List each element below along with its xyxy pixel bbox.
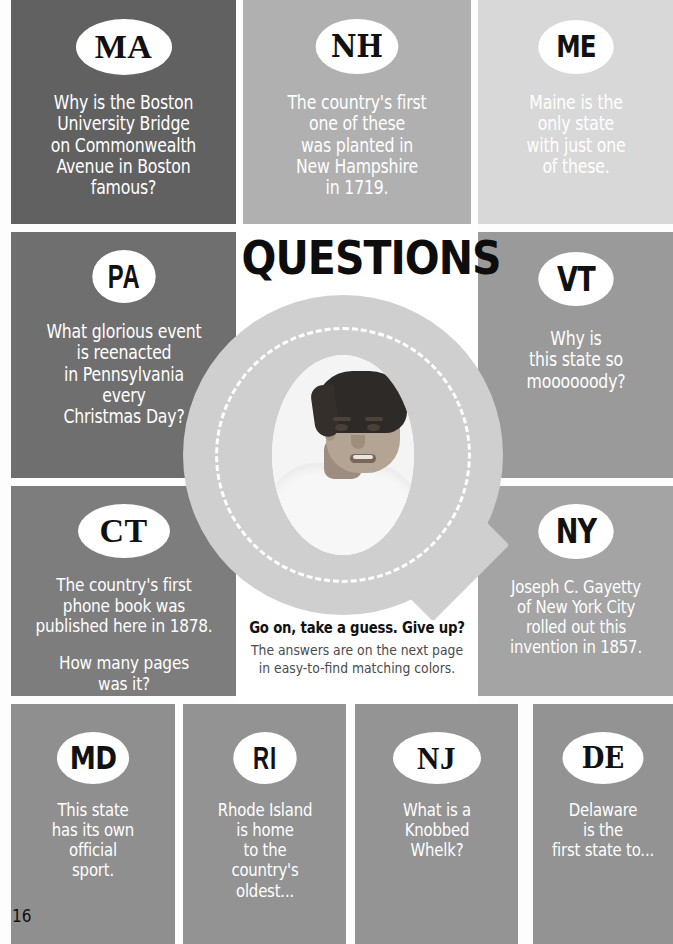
question-card-ri[interactable]: RI Rhode Island is home to the country's… bbox=[183, 704, 346, 944]
portrait-photo bbox=[272, 355, 414, 555]
question-card-md[interactable]: MD This state has its own official sport… bbox=[11, 704, 175, 944]
state-badge-ma: MA bbox=[76, 19, 172, 75]
question-text-md: This state has its own official sport. bbox=[24, 800, 162, 881]
eyebrow-left bbox=[333, 417, 351, 421]
question-text-ma: Why is the Boston University Bridge on C… bbox=[29, 92, 218, 198]
question-card-ny[interactable]: NY Joseph C. Gayetty of New York City ro… bbox=[478, 486, 673, 696]
question-card-ma[interactable]: MA Why is the Boston University Bridge o… bbox=[11, 0, 236, 224]
caption-line-2: in easy-to-find matching colors. bbox=[242, 660, 472, 678]
question-card-nh[interactable]: NH The country's first one of these was … bbox=[243, 0, 471, 224]
text-spacer bbox=[23, 637, 224, 653]
page-title: QUESTIONS bbox=[242, 234, 475, 281]
caption-sub: The answers are on the next page in easy… bbox=[242, 642, 472, 677]
big-q-letter-graphic bbox=[183, 295, 503, 615]
question-text-me: Maine is the only state with just one of… bbox=[493, 92, 659, 177]
state-badge-ny: NY bbox=[538, 504, 613, 559]
boy-portrait-illustration bbox=[272, 355, 414, 555]
state-badge-ct: CT bbox=[78, 504, 170, 558]
question-card-de[interactable]: DE Delaware is the first state to... bbox=[533, 704, 673, 944]
eye-left bbox=[335, 424, 348, 431]
question-card-me[interactable]: ME Maine is the only state with just one… bbox=[478, 0, 673, 224]
question-text-de: Delaware is the first state to... bbox=[540, 800, 665, 860]
state-badge-vt: VT bbox=[538, 252, 613, 306]
caption-line-1: The answers are on the next page bbox=[242, 642, 472, 660]
state-badge-pa: PA bbox=[92, 250, 155, 303]
state-badge-md: MD bbox=[57, 732, 129, 784]
question-text-nh: The country's first one of these was pla… bbox=[260, 92, 453, 198]
quiz-page: MA Why is the Boston University Bridge o… bbox=[0, 0, 673, 944]
nose bbox=[351, 435, 365, 449]
question-card-vt[interactable]: VT Why is this state so moooooody? bbox=[478, 232, 673, 478]
teeth bbox=[353, 455, 373, 459]
state-badge-me: ME bbox=[538, 20, 613, 74]
question-text-vt: Why is this state so moooooody? bbox=[493, 328, 659, 392]
state-badge-ri: RI bbox=[233, 732, 296, 784]
state-badge-nj: NJ bbox=[393, 732, 481, 784]
eye-right bbox=[367, 424, 380, 431]
question-card-nj[interactable]: NJ What is a Knobbed Whelk? bbox=[355, 704, 518, 944]
question-text-ri: Rhode Island is home to the country's ol… bbox=[196, 800, 334, 901]
state-badge-nh: NH bbox=[316, 19, 399, 74]
eyebrow-right bbox=[365, 417, 383, 421]
question-text-ny: Joseph C. Gayetty of New York City rolle… bbox=[490, 577, 661, 658]
caption-lead: Go on, take a guess. Give up? bbox=[242, 620, 472, 638]
page-number: 16 bbox=[12, 906, 31, 926]
answer-caption: Go on, take a guess. Give up? The answer… bbox=[236, 620, 478, 677]
state-badge-de: DE bbox=[563, 732, 644, 784]
question-text-nj: What is a Knobbed Whelk? bbox=[368, 800, 506, 860]
